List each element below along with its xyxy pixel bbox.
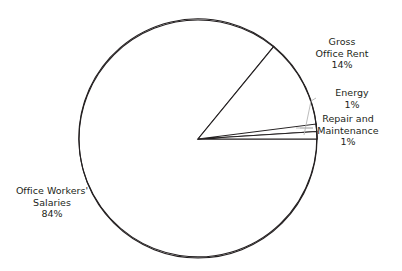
slice-label-energy-line1: Energy — [316, 87, 388, 99]
slice-label-office-workers-salaries: Office Workers' Salaries 84% — [1, 185, 103, 220]
slice-label-office-workers-salaries-line2: Salaries — [1, 197, 103, 209]
slice-label-gross-office-rent-line2: Office Rent — [299, 48, 385, 60]
slice-label-office-workers-salaries-value: 84% — [1, 208, 103, 220]
pie-chart: Gross Office Rent 14% Energy 1% Repair a… — [0, 0, 402, 271]
slice-label-gross-office-rent: Gross Office Rent 14% — [299, 36, 385, 71]
slice-label-repair-and-maintenance-value: 1% — [296, 136, 400, 148]
slice-label-repair-and-maintenance-line1: Repair and — [296, 113, 400, 125]
slice-label-gross-office-rent-value: 14% — [299, 59, 385, 71]
slice-label-gross-office-rent-line1: Gross — [299, 36, 385, 48]
slice-label-energy: Energy 1% — [316, 87, 388, 110]
slice-label-repair-and-maintenance-line2: Maintenance — [296, 125, 400, 137]
slice-label-energy-value: 1% — [316, 99, 388, 111]
slice-label-repair-and-maintenance: Repair and Maintenance 1% — [296, 113, 400, 148]
slice-label-office-workers-salaries-line1: Office Workers' — [1, 185, 103, 197]
